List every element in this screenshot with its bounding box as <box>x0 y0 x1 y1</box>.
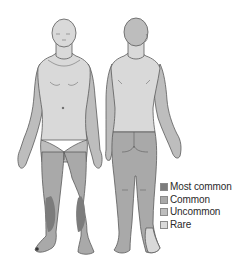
legend-label: Most common <box>170 181 232 193</box>
legend-swatch-common <box>160 196 168 204</box>
legend-item-uncommon: Uncommon <box>160 206 232 219</box>
front-torso <box>38 52 90 140</box>
legend-item-common: Common <box>160 194 232 207</box>
legend-item-most-common: Most common <box>160 181 232 194</box>
front-view-figure <box>18 19 102 254</box>
front-toe-marker <box>35 247 38 250</box>
legend-swatch-uncommon <box>160 208 168 216</box>
legend-item-rare: Rare <box>160 219 232 232</box>
front-head <box>52 19 76 47</box>
legend-swatch-most-common <box>160 183 168 191</box>
legend-label: Rare <box>170 219 191 231</box>
back-head <box>124 18 148 46</box>
legend-label: Uncommon <box>170 206 220 218</box>
legend-swatch-rare <box>160 221 168 229</box>
legend: Most common Common Uncommon Rare <box>160 181 232 231</box>
front-navel <box>62 107 64 109</box>
legend-label: Common <box>170 194 210 206</box>
back-torso <box>111 52 160 132</box>
back-left-heel <box>145 228 160 253</box>
